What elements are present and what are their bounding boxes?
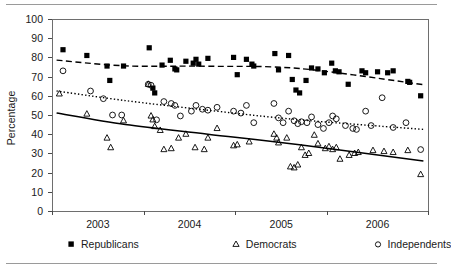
legend-label: Democrats [246,238,297,250]
data-point-republicans [286,53,291,58]
data-point-independents [177,113,183,119]
data-point-republicans [407,80,412,85]
legend-label: Republicans [81,238,139,250]
data-point-republicans [193,57,198,62]
data-point-republicans [329,61,334,66]
data-point-democrats [418,171,424,177]
data-point-independents [193,103,199,109]
data-point-republicans [309,65,314,70]
data-point-republicans [174,67,179,72]
legend-item-independents: Independents [373,238,451,250]
data-point-republicans [375,69,380,74]
data-point-republicans [418,93,423,98]
data-point-republicans [290,77,295,82]
trend-line-democrats [57,113,424,161]
data-point-democrats [390,149,396,155]
chart-legend: RepublicansDemocratsIndependents [52,236,428,252]
data-point-independents [119,112,125,118]
data-point-independents [189,108,195,114]
data-point-independents [244,103,250,109]
data-point-democrats [84,111,90,117]
data-point-independents [214,104,220,110]
data-point-independents [88,88,94,94]
data-point-independents [321,126,327,132]
data-point-democrats [234,141,240,147]
data-point-democrats [284,135,290,141]
data-point-democrats [108,144,114,150]
data-point-independents [251,120,257,126]
data-point-independents [60,68,66,74]
plot-tick-marks [48,20,429,216]
data-point-democrats [192,144,198,150]
data-point-republicans [272,51,277,56]
data-point-democrats [337,156,343,162]
data-point-republicans [60,47,65,52]
data-point-democrats [104,135,110,141]
data-point-republicans [315,66,320,71]
data-point-independents [286,108,292,114]
data-point-democrats [315,140,321,146]
data-point-republicans [391,68,396,73]
data-point-republicans [322,70,327,75]
filled-square-icon [66,239,76,249]
legend-item-republicans: Republicans [66,238,139,250]
data-point-independents [110,112,116,118]
data-point-democrats [346,152,352,158]
data-point-republicans [244,57,249,62]
data-point-republicans [84,53,89,58]
data-point-republicans [303,78,308,83]
data-point-democrats [381,148,387,154]
data-point-independents [418,147,424,153]
data-point-republicans [183,59,188,64]
data-point-republicans [251,63,256,68]
data-point-republicans [121,63,126,68]
data-point-republicans [152,90,157,95]
data-point-republicans [107,78,112,83]
data-point-republicans [168,58,173,63]
data-point-democrats [405,147,411,153]
data-point-republicans [159,62,164,67]
data-point-democrats [176,135,182,141]
data-point-independents [100,96,106,102]
data-point-democrats [168,145,174,151]
data-point-independents [271,101,277,107]
data-point-republicans [235,72,240,77]
data-point-republicans [297,90,302,95]
data-point-independents [343,123,349,129]
data-point-independents [390,125,396,131]
data-point-democrats [370,147,376,153]
data-point-republicans [363,70,368,75]
data-point-independents [315,122,321,128]
data-point-republicans [104,63,109,68]
data-point-independents [379,95,385,101]
data-point-independents [354,126,360,132]
data-point-independents [403,120,409,126]
open-triangle-icon [231,239,241,249]
data-point-republicans [385,70,390,75]
data-point-democrats [295,162,301,168]
data-point-republicans [147,45,152,50]
data-point-republicans [276,67,281,72]
legend-item-democrats: Democrats [231,238,297,250]
data-point-democrats [214,125,220,131]
data-point-republicans [231,55,236,60]
data-point-democrats [205,135,211,141]
open-circle-icon [373,239,383,249]
data-point-independents [350,126,356,132]
data-point-independents [280,120,286,126]
data-point-independents [231,108,237,114]
data-point-republicans [196,62,201,67]
legend-label: Independents [388,238,451,250]
data-points [56,45,423,176]
data-point-independents [161,99,167,105]
data-point-democrats [201,146,207,152]
data-point-republicans [336,69,341,74]
data-point-independents [309,114,315,120]
data-point-democrats [311,132,317,138]
data-point-democrats [306,150,312,156]
data-point-republicans [205,56,210,61]
data-point-republicans [346,82,351,87]
data-point-democrats [161,146,167,152]
